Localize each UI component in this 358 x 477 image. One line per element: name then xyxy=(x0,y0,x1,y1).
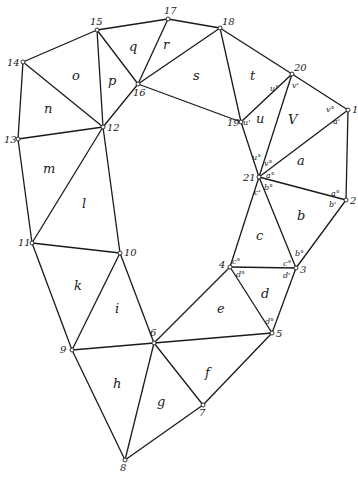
vertex-label: 7 xyxy=(199,407,206,418)
face-label-r: r xyxy=(163,37,170,52)
face-label-d: d xyxy=(261,286,269,301)
vertex-21 xyxy=(257,175,261,179)
vertex-3 xyxy=(294,266,298,270)
vertex-label: 13 xyxy=(4,134,17,145)
angle-label: d° xyxy=(236,270,245,279)
angle-label: v° xyxy=(326,105,335,114)
vertices-layer xyxy=(16,17,350,462)
vertex-label: 16 xyxy=(133,87,146,98)
edge-17-15 xyxy=(97,19,168,30)
edge-14-13 xyxy=(18,62,23,139)
vertex-label: 3 xyxy=(300,264,306,275)
edge-10-11 xyxy=(32,243,120,253)
face-labels-layer: abcdefghiklmnopqrstuV xyxy=(43,37,305,409)
angle-label: u' xyxy=(243,118,250,127)
face-label-g: g xyxy=(157,394,165,409)
vertex-label: 6 xyxy=(150,327,157,338)
face-label-o: o xyxy=(72,68,80,83)
angle-label: a° xyxy=(331,189,340,198)
vertex-label: 8 xyxy=(120,462,126,473)
triangulation-diagram: 123456789101112131415161718192021 abcdef… xyxy=(0,0,358,477)
edge-12-13 xyxy=(18,127,103,139)
vertex-label: 5 xyxy=(276,328,282,339)
face-label-a: a xyxy=(297,153,305,168)
vertex-label: 21 xyxy=(242,172,256,183)
angle-label: v° xyxy=(264,159,273,168)
edge-16-19 xyxy=(138,84,241,122)
vertex-label: 18 xyxy=(222,16,235,27)
edge-6-5 xyxy=(154,333,272,343)
edge-2-1 xyxy=(346,110,348,200)
edge-6-9 xyxy=(72,343,154,350)
angle-label: a° xyxy=(266,171,275,180)
face-label-l: l xyxy=(82,196,86,211)
face-label-k: k xyxy=(74,278,82,293)
edge-12-15 xyxy=(97,30,103,127)
vertex-label: 17 xyxy=(164,5,177,16)
edge-12-11 xyxy=(32,127,103,243)
angle-label: v' xyxy=(292,81,299,90)
face-label-h: h xyxy=(113,376,121,391)
edge-13-11 xyxy=(18,139,32,243)
vertex-label: 4 xyxy=(218,259,225,270)
edge-11-9 xyxy=(32,243,72,350)
angle-label: b° xyxy=(264,183,273,192)
angle-label: u° xyxy=(270,84,279,93)
face-label-n: n xyxy=(44,101,52,116)
edge-10-9 xyxy=(72,253,120,350)
vertex-1 xyxy=(346,108,350,112)
edge-15-14 xyxy=(23,30,97,62)
edge-18-17 xyxy=(168,19,220,28)
face-label-b: b xyxy=(297,208,305,223)
vertex-5 xyxy=(270,331,274,335)
vertex-9 xyxy=(70,348,74,352)
edge-9-8 xyxy=(72,350,125,460)
angle-label: d° xyxy=(265,317,274,326)
angle-label: a' xyxy=(333,117,340,126)
angle-labels-layer: u°v'u'v°a'u°v°a°b°c'a°b'c°d°c°b°d'd° xyxy=(232,81,340,326)
edge-6-10 xyxy=(120,253,154,343)
vertex-labels-layer: 123456789101112131415161718192021 xyxy=(4,5,358,473)
vertex-label: 19 xyxy=(227,117,240,128)
face-label-p: p xyxy=(108,73,117,88)
edge-1-20 xyxy=(292,74,348,110)
edge-20-18 xyxy=(220,28,292,74)
face-label-c: c xyxy=(256,228,264,243)
edge-12-14 xyxy=(23,62,103,127)
edge-18-19 xyxy=(220,28,241,122)
edge-7-5 xyxy=(203,333,272,405)
vertex-label: 15 xyxy=(90,16,103,27)
vertex-label: 14 xyxy=(7,57,20,68)
angle-label: d' xyxy=(283,271,290,280)
edge-10-12 xyxy=(103,127,120,253)
angle-label: c' xyxy=(254,188,261,197)
face-label-q: q xyxy=(129,39,137,54)
vertex-14 xyxy=(21,60,25,64)
vertex-label: 11 xyxy=(18,237,31,248)
face-label-m: m xyxy=(43,161,55,176)
angle-label: u° xyxy=(252,153,261,162)
vertex-label: 10 xyxy=(124,247,137,258)
vertex-label: 2 xyxy=(349,195,356,206)
vertex-6 xyxy=(152,341,156,345)
face-label-V: V xyxy=(288,112,299,127)
angle-label: c° xyxy=(283,259,291,268)
angle-label: b' xyxy=(329,200,336,209)
face-label-t: t xyxy=(250,68,256,83)
face-label-i: i xyxy=(115,301,119,316)
angle-label: c° xyxy=(232,257,240,266)
face-label-u: u xyxy=(256,111,264,126)
vertex-label: 1 xyxy=(352,104,358,115)
vertex-16 xyxy=(136,82,140,86)
angle-label: b° xyxy=(295,249,304,258)
face-label-s: s xyxy=(193,68,200,83)
face-label-f: f xyxy=(204,365,212,380)
vertex-10 xyxy=(118,251,122,255)
face-label-e: e xyxy=(217,301,225,316)
vertex-label: 20 xyxy=(293,62,307,73)
vertex-label: 12 xyxy=(107,122,120,133)
edge-19-21 xyxy=(241,122,259,177)
vertex-label: 9 xyxy=(60,344,67,355)
vertex-2 xyxy=(344,198,348,202)
vertex-15 xyxy=(95,28,99,32)
